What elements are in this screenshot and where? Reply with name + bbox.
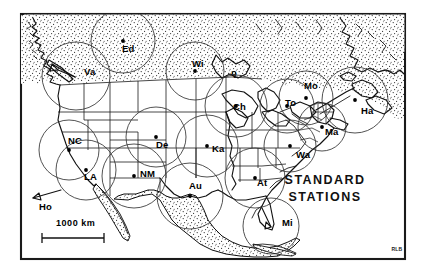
station-label: Mo [304, 80, 318, 91]
standard-stations-map: VaEdWiMoToHaMaChNCDeKaWaLANMAuAtMi Q Ho … [0, 0, 426, 273]
canada-q-label: Q [231, 70, 237, 78]
station-label: Va [84, 66, 96, 77]
station-label: Ma [325, 126, 339, 137]
station-label: Ka [212, 143, 225, 154]
station-label: Au [189, 180, 202, 191]
station-label: Ha [361, 105, 374, 116]
station-label: Mi [282, 217, 293, 228]
artist-signature: RLB [392, 246, 403, 252]
honolulu-label: Ho [39, 201, 52, 212]
station-label: To [285, 97, 296, 108]
station-dot [188, 194, 192, 198]
title-line-2: STATIONS [289, 190, 362, 204]
station-label: NC [68, 135, 82, 146]
station-dot [288, 144, 292, 148]
station-dot [304, 96, 308, 100]
station-label: De [156, 139, 168, 150]
station-label: Wi [192, 58, 204, 69]
title-line-1: STANDARD [285, 173, 366, 187]
station-label: Ch [233, 101, 246, 112]
canada-q-marker: Q [231, 70, 237, 78]
scale-bar-label: 1000 km [56, 218, 95, 228]
station-dot [193, 69, 197, 73]
station-label: Ed [122, 43, 134, 54]
station-dot [320, 125, 324, 129]
station-label: NM [140, 168, 155, 179]
map-canvas: VaEdWiMoToHaMaChNCDeKaWaLANMAuAtMi Q Ho … [0, 0, 426, 273]
station-marker[interactable]: Ch [233, 101, 246, 112]
station-marker[interactable]: Va [84, 66, 96, 77]
station-marker[interactable]: LA [84, 168, 97, 182]
station-marker[interactable]: Mi [282, 217, 293, 228]
station-marker[interactable]: To [285, 97, 296, 108]
station-dot [132, 174, 136, 178]
station-label: LA [84, 171, 97, 182]
station-dot [67, 148, 71, 152]
station-dot [353, 98, 357, 102]
station-label: At [257, 177, 268, 188]
station-dot [205, 144, 209, 148]
station-label: Wa [296, 149, 311, 160]
